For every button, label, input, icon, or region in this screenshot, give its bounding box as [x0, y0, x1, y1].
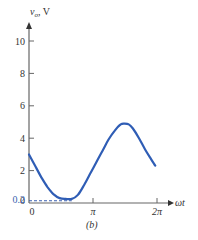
figure-caption: (b) — [86, 219, 98, 231]
y-axis-label: vo, V — [30, 6, 51, 19]
y-label-unit: , V — [38, 6, 51, 17]
x-axis-arrow-icon — [168, 200, 174, 206]
x-tick-label: 0 — [30, 206, 35, 217]
y-axis-arrow-icon — [26, 22, 32, 29]
reference-value-label: 0.2 — [13, 194, 26, 205]
x-axis-label: ωt — [175, 197, 185, 208]
series-line-vo — [29, 124, 155, 200]
y-tick-label: 8 — [20, 68, 25, 79]
chart: 0246810 0π2π 0.2 vo, V ωt (b) — [0, 0, 198, 240]
y-tick-label: 6 — [20, 100, 25, 111]
y-tick-label: 10 — [15, 36, 25, 47]
x-tick-label: π — [90, 206, 96, 217]
y-axis: 0246810 — [15, 22, 34, 206]
x-tick-label: 2π — [152, 206, 163, 217]
y-tick-label: 2 — [20, 165, 25, 176]
y-tick-label: 4 — [20, 133, 25, 144]
